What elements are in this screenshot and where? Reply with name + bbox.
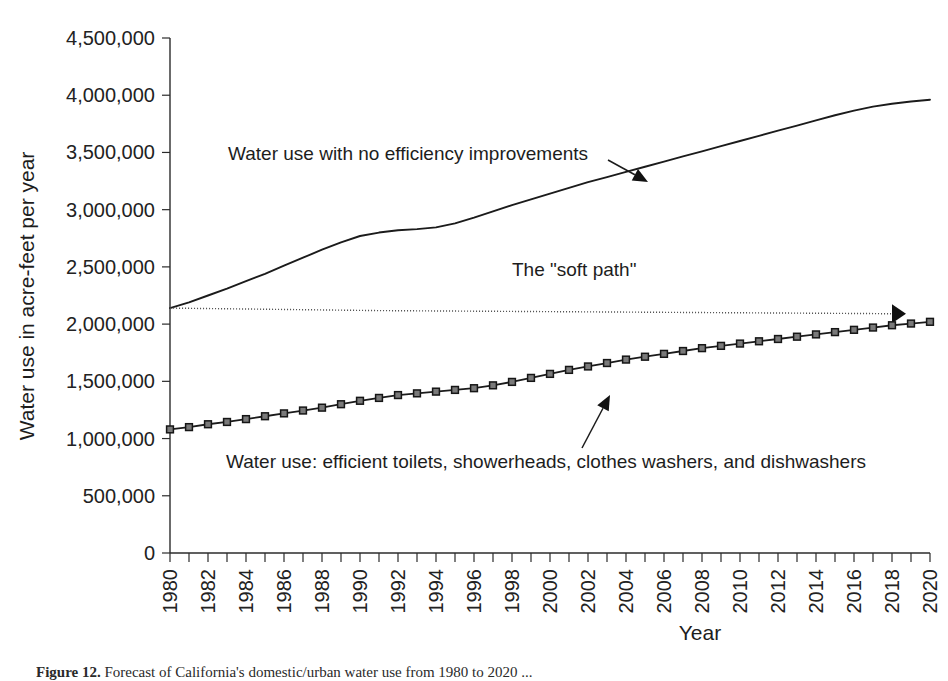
axes-group (170, 38, 930, 553)
data-point-marker (262, 413, 269, 420)
data-point-marker (319, 404, 326, 411)
data-point-marker (471, 385, 478, 392)
x-tick-label: 1982 (197, 569, 219, 614)
figure-caption: Figure 12. Forecast of California's dome… (36, 664, 926, 681)
annot-no-efficiency: Water use with no efficiency improvement… (228, 143, 588, 164)
y-tick-label: 4,500,000 (66, 27, 155, 49)
y-tick-label: 500,000 (83, 485, 155, 507)
data-point-marker (927, 318, 934, 325)
caption-text: Forecast of California's domestic/urban … (104, 664, 532, 680)
data-point-marker (167, 426, 174, 433)
y-tick-label: 3,500,000 (66, 141, 155, 163)
x-axis-title: Year (679, 621, 721, 644)
data-point-marker (528, 375, 535, 382)
data-point-marker (680, 348, 687, 355)
x-tick-label: 2010 (729, 569, 751, 614)
x-tick-label: 2020 (919, 569, 941, 614)
data-point-marker (490, 382, 497, 389)
data-point-marker (395, 392, 402, 399)
x-tick-label: 1980 (159, 569, 181, 614)
data-point-marker (737, 340, 744, 347)
data-point-marker (509, 379, 516, 386)
x-tick-label: 2006 (653, 569, 675, 614)
data-point-marker (623, 356, 630, 363)
x-axis-tick-labels: 1980198219841986198819901992199419961998… (159, 569, 941, 614)
y-tick-label: 2,500,000 (66, 256, 155, 278)
x-tick-label: 1988 (311, 569, 333, 614)
data-point-marker (851, 326, 858, 333)
data-point-marker (908, 320, 915, 327)
data-point-marker (338, 401, 345, 408)
data-point-marker (604, 360, 611, 367)
data-point-marker (661, 350, 668, 357)
soft-path-arrowhead (892, 304, 906, 323)
data-point-marker (566, 366, 573, 373)
x-axis-ticks (170, 553, 930, 562)
data-point-marker (585, 363, 592, 370)
y-tick-label: 1,500,000 (66, 370, 155, 392)
data-point-marker (889, 322, 896, 329)
annotations-layer: Water use with no efficiency improvement… (226, 143, 866, 472)
x-tick-label: 2012 (767, 569, 789, 614)
y-tick-label: 1,000,000 (66, 428, 155, 450)
y-tick-label: 4,000,000 (66, 84, 155, 106)
data-point-marker (281, 410, 288, 417)
x-tick-label: 1990 (349, 569, 371, 614)
figure-container: 0500,0001,000,0001,500,0002,000,0002,500… (0, 0, 948, 681)
data-point-marker (357, 397, 364, 404)
x-tick-label: 2016 (843, 569, 865, 614)
y-axis-ticks (162, 38, 170, 553)
data-point-marker (433, 388, 440, 395)
y-axis-title: Water use in acre-feet per year (15, 152, 38, 441)
y-tick-label: 2,000,000 (66, 313, 155, 335)
data-point-marker (699, 345, 706, 352)
x-tick-label: 2008 (691, 569, 713, 614)
annotation-arrowhead (597, 395, 610, 411)
data-point-marker (376, 395, 383, 402)
data-point-marker (452, 387, 459, 394)
data-point-marker (300, 407, 307, 414)
annotation-arrowhead (632, 169, 648, 182)
data-point-marker (642, 353, 649, 360)
data-point-marker (414, 390, 421, 397)
y-axis-tick-labels: 0500,0001,000,0001,500,0002,000,0002,500… (66, 27, 155, 564)
x-tick-label: 1992 (387, 569, 409, 614)
data-point-marker (870, 324, 877, 331)
caption-label: Figure 12. (36, 664, 101, 680)
data-point-marker (224, 419, 231, 426)
x-tick-label: 2014 (805, 569, 827, 614)
data-point-marker (813, 331, 820, 338)
x-tick-label: 1986 (273, 569, 295, 614)
annotation-leader-line (582, 408, 603, 448)
x-tick-label: 2002 (577, 569, 599, 614)
x-tick-label: 2018 (881, 569, 903, 614)
x-tick-label: 2000 (539, 569, 561, 614)
annot-soft-path: The "soft path" (512, 259, 636, 280)
x-tick-label: 1998 (501, 569, 523, 614)
x-tick-label: 1984 (235, 569, 257, 614)
y-tick-label: 0 (144, 542, 155, 564)
water-use-line-chart: 0500,0001,000,0001,500,0002,000,0002,500… (0, 0, 948, 681)
data-point-marker (794, 333, 801, 340)
x-tick-label: 1994 (425, 569, 447, 614)
data-point-marker (756, 338, 763, 345)
annot-efficient-devices: Water use: efficient toilets, showerhead… (226, 451, 866, 472)
y-tick-label: 3,000,000 (66, 199, 155, 221)
data-point-marker (718, 342, 725, 349)
x-tick-label: 2004 (615, 569, 637, 614)
data-point-marker (775, 336, 782, 343)
data-point-marker (547, 370, 554, 377)
data-point-marker (243, 416, 250, 423)
x-tick-label: 1996 (463, 569, 485, 614)
data-point-marker (832, 329, 839, 336)
data-point-marker (205, 421, 212, 428)
data-point-marker (186, 424, 193, 431)
series-path-1 (170, 308, 892, 314)
